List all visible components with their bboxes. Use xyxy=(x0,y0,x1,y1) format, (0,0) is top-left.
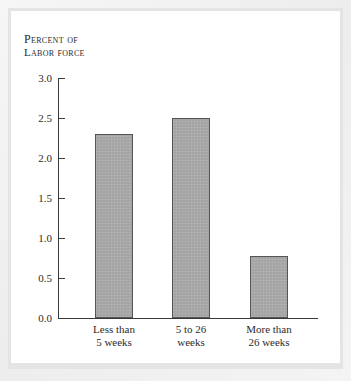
bar-5-to-26-weeks[interactable] xyxy=(172,118,210,318)
plot-area: 3.0 2.5 2.0 1.5 1.0 0.5 0.0 Less than 5 … xyxy=(0,0,351,381)
y-tick-label: 0.0 xyxy=(22,312,52,324)
y-tick-label: 0.5 xyxy=(22,272,52,284)
chart-screenshot: Percent of Labor force 3.0 2.5 2.0 1.5 1… xyxy=(0,0,351,381)
y-tick-mark xyxy=(59,238,65,239)
y-tick-label: 2.0 xyxy=(22,152,52,164)
bar-more-than-26-weeks[interactable] xyxy=(250,256,288,318)
y-tick-mark xyxy=(59,278,65,279)
y-tick-label: 2.5 xyxy=(22,112,52,124)
x-axis-label-2-line-2: 26 weeks xyxy=(214,336,324,349)
y-tick-label: 3.0 xyxy=(22,72,52,84)
x-axis-label-2-line-1: More than xyxy=(214,323,324,336)
y-tick-mark xyxy=(59,118,65,119)
x-axis-label-2: More than 26 weeks xyxy=(214,323,324,349)
y-tick-mark xyxy=(59,78,65,79)
y-tick-label: 1.0 xyxy=(22,232,52,244)
y-tick-mark xyxy=(59,158,65,159)
x-axis-line xyxy=(58,318,318,319)
y-tick-label: 1.5 xyxy=(22,192,52,204)
y-tick-mark xyxy=(59,198,65,199)
bar-less-than-5-weeks[interactable] xyxy=(95,134,133,318)
y-tick-mark xyxy=(59,318,65,319)
